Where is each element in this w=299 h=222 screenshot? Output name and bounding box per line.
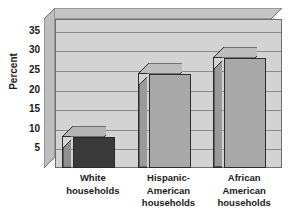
bar-chart: Percent 3530252015105 White householdsHi… xyxy=(0,0,299,222)
category-label-3: African American households xyxy=(199,172,289,210)
bar-side-face xyxy=(62,136,71,168)
plot-left-wall-3d xyxy=(44,8,55,168)
y-axis-tick-label: 15 xyxy=(14,104,40,114)
bar-1[interactable] xyxy=(62,126,106,168)
bar-front-face xyxy=(73,137,115,168)
x-axis-category-labels: White householdsHispanic- American house… xyxy=(44,172,290,222)
y-axis-tick-label: 5 xyxy=(14,143,40,153)
bar-2[interactable] xyxy=(138,63,182,168)
bar-3[interactable] xyxy=(213,47,257,168)
y-axis-tick-label: 10 xyxy=(14,124,40,134)
gridline xyxy=(56,32,281,33)
bar-front-face xyxy=(224,58,266,168)
y-axis-tick-label: 20 xyxy=(14,85,40,95)
y-axis-tick-label: 35 xyxy=(14,26,40,36)
y-axis-tick-label: 25 xyxy=(14,65,40,75)
plot-top-face-3d xyxy=(44,8,282,19)
bar-front-face xyxy=(149,74,191,168)
bar-side-face xyxy=(138,73,147,168)
bar-side-face xyxy=(213,57,222,168)
y-axis-tick-labels: 3530252015105 xyxy=(12,0,40,168)
y-axis-tick-label: 30 xyxy=(14,45,40,55)
